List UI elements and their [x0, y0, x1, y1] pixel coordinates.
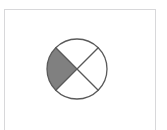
quartered-circle-diagram — [0, 0, 167, 130]
figure-panel — [0, 0, 167, 130]
